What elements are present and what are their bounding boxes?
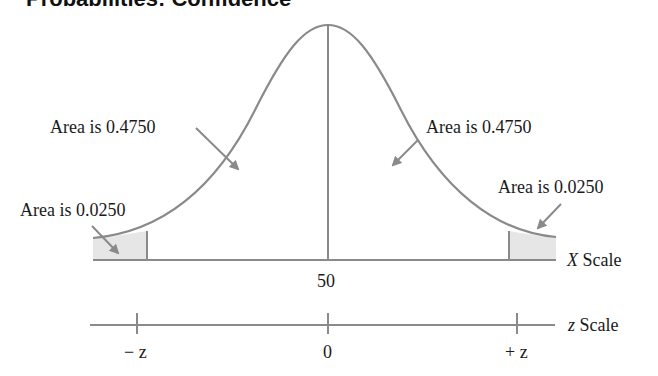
z-scale-var: z [567,315,575,335]
z-scale-label: z Scale [567,315,619,335]
x-scale-label: X Scale [566,250,621,270]
label-right-center-area: Area is 0.4750 [426,117,531,137]
x-scale-var: X [566,250,579,270]
z-left-tick-label: − z [124,342,147,362]
label-left-tail-area: Area is 0.0250 [20,200,125,220]
z-scale-word: Scale [580,315,619,335]
label-right-tail-area: Area is 0.0250 [498,177,603,197]
z-right-tick-label: + z [505,342,528,362]
x-center-tick-label: 50 [317,271,335,291]
label-left-center-area: Area is 0.4750 [50,117,155,137]
arrow-right-center-icon [393,140,418,165]
arrow-right-tail-icon [538,204,561,228]
z-center-tick-label: 0 [323,342,332,362]
x-scale-word: Scale [583,250,622,270]
normal-distribution-diagram: Area is 0.4750 Area is 0.4750 Area is 0.… [0,0,658,376]
